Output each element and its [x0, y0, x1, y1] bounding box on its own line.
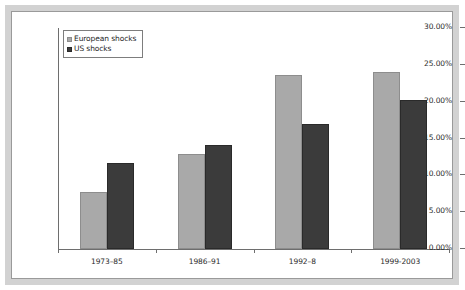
x-tick-mark	[156, 249, 157, 253]
chart-legend: European shocks US shocks	[63, 30, 143, 58]
legend-item-us-shocks: US shocks	[67, 44, 136, 54]
y-tick-mark	[460, 248, 465, 249]
plot-area	[58, 28, 449, 249]
y-tick-mark	[460, 174, 465, 175]
x-tick-label-3: 1999-2003	[351, 256, 449, 267]
x-tick-mark	[351, 249, 352, 253]
x-tick-label-2: 1992–8	[254, 256, 352, 267]
x-tick-mark	[449, 249, 450, 253]
legend-label-us: US shocks	[74, 44, 111, 54]
x-tick-mark	[58, 249, 59, 253]
legend-item-european-shocks: European shocks	[67, 34, 136, 44]
bar-us-3	[400, 100, 427, 249]
legend-swatch-icon-us	[67, 47, 72, 52]
x-tick-label-1: 1986–91	[156, 256, 254, 267]
y-tick-mark	[460, 101, 465, 102]
y-tick-mark	[460, 211, 465, 212]
x-axis-ticks: 1973–851986–911992–81999-2003	[58, 249, 450, 277]
bar-us-1	[205, 145, 232, 249]
bar-european-0	[80, 192, 107, 249]
bar-european-3	[373, 72, 400, 249]
x-tick-mark	[254, 249, 255, 253]
x-tick-label-0: 1973–85	[58, 256, 156, 267]
bar-us-0	[107, 163, 134, 249]
y-tick-mark	[460, 27, 465, 28]
bar-us-2	[302, 124, 329, 249]
bar-european-1	[178, 154, 205, 249]
legend-label-european: European shocks	[74, 34, 136, 44]
legend-swatch-icon-european	[67, 37, 72, 42]
y-tick-mark	[460, 64, 465, 65]
y-tick-mark	[460, 138, 465, 139]
bar-european-2	[275, 75, 302, 249]
